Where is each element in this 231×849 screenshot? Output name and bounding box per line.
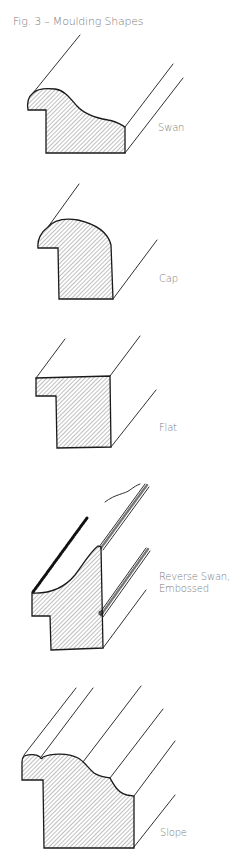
slope-label: Slope (160, 827, 187, 839)
swan-label: Swan (158, 122, 184, 134)
reverse-swan-label-line2: Embossed (159, 583, 230, 595)
reverse-swan-label-line1: Reverse Swan, (159, 571, 230, 583)
slope-moulding-shape (22, 686, 175, 848)
reverse-swan-embossed-label: Reverse Swan, Embossed (159, 571, 230, 595)
cap-label: Cap (159, 273, 178, 285)
swan-moulding-shape (28, 35, 183, 153)
cap-moulding-shape (38, 184, 157, 299)
flat-label: Flat (159, 422, 177, 434)
reverse-swan-embossed-moulding-shape (32, 484, 150, 650)
moulding-shapes-diagram (0, 0, 231, 849)
flat-moulding-shape (36, 336, 156, 448)
